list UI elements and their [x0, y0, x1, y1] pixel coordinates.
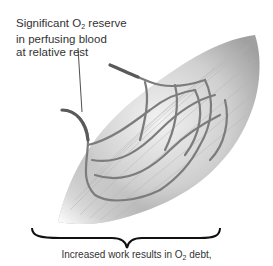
- curly-brace: [32, 228, 220, 248]
- vessel-left-end: [62, 110, 88, 140]
- o2-reserve-label: Significant O2 reserve in perfusing bloo…: [16, 17, 127, 59]
- o2-debt-label: Increased work results in O2 debt,: [0, 249, 273, 261]
- muscle-body: [58, 35, 260, 224]
- vessel-top-end: [110, 65, 138, 77]
